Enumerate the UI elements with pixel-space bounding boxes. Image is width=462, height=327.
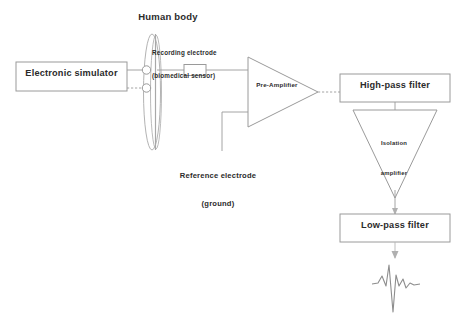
isolation-amplifier-label: Isolation amplifier	[358, 118, 430, 198]
diagram-canvas: Human body Recording electrode (biomedic…	[0, 0, 462, 327]
pre-amplifier-triangle[interactable]	[248, 57, 318, 127]
electronic-simulator-label: Electronic simulator	[16, 68, 127, 80]
recording-electrode-contact[interactable]	[142, 66, 150, 74]
recording-electrode-label-line1: Recording electrode	[152, 49, 252, 57]
isolation-amplifier-label-line2: amplifier	[358, 168, 430, 178]
low-pass-filter-label: Low-pass filter	[340, 220, 450, 232]
reference-electrode-contact[interactable]	[142, 84, 150, 92]
isolation-amplifier-label-line1: Isolation	[358, 138, 430, 148]
lowpass-output-arrowhead	[392, 251, 399, 259]
reference-electrode-label-line2: (ground)	[166, 199, 270, 208]
recording-electrode-label: Recording electrode (biomedical sensor)	[152, 33, 252, 96]
output-waveform-trace	[372, 265, 420, 312]
pre-amplifier-label: Pre-Amplifier	[246, 81, 308, 89]
high-pass-filter-label: High-pass filter	[340, 80, 450, 92]
human-body-label: Human body	[120, 11, 216, 23]
reference-electrode-label-line1: Reference electrode	[166, 171, 270, 180]
recording-electrode-label-line2: (biomedical sensor)	[152, 72, 252, 80]
reference-electrode-label: Reference electrode (ground)	[166, 152, 270, 228]
